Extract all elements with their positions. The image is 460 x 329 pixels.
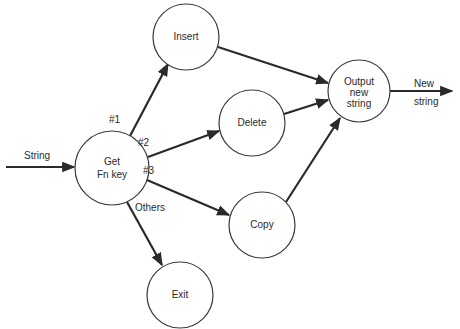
edge-insert-to-output bbox=[218, 47, 328, 83]
node-output-line3: string bbox=[347, 98, 371, 109]
edge-to-delete bbox=[148, 131, 219, 157]
node-output-new-string: Output new string bbox=[328, 60, 390, 122]
node-copy: Copy bbox=[229, 192, 295, 258]
node-insert: Insert bbox=[153, 4, 219, 70]
edge-to-insert bbox=[130, 64, 168, 136]
edge-label-1: #1 bbox=[109, 114, 121, 125]
edge-label-2: #2 bbox=[138, 137, 150, 148]
edge-label-others: Others bbox=[135, 202, 165, 213]
node-copy-label: Copy bbox=[250, 219, 273, 230]
edge-label-string-out: string bbox=[414, 96, 438, 107]
node-exit-label: Exit bbox=[172, 289, 189, 300]
edge-label-3: #3 bbox=[143, 165, 155, 176]
node-exit: Exit bbox=[147, 262, 213, 328]
edge-label-string: String bbox=[24, 150, 50, 161]
flow-diagram: Get Fn key Insert Delete Copy Exit Outpu… bbox=[0, 0, 460, 329]
node-insert-label: Insert bbox=[173, 31, 198, 42]
edge-label-new: New bbox=[414, 78, 435, 89]
node-get-fn-key-line1: Get bbox=[104, 156, 120, 167]
node-output-line2: new bbox=[350, 87, 369, 98]
node-delete: Delete bbox=[219, 90, 285, 156]
edge-copy-to-output bbox=[286, 118, 340, 202]
node-delete-label: Delete bbox=[238, 117, 267, 128]
edge-delete-to-output bbox=[284, 100, 328, 114]
node-output-line1: Output bbox=[344, 76, 374, 87]
node-get-fn-key-line2: Fn key bbox=[97, 169, 127, 180]
